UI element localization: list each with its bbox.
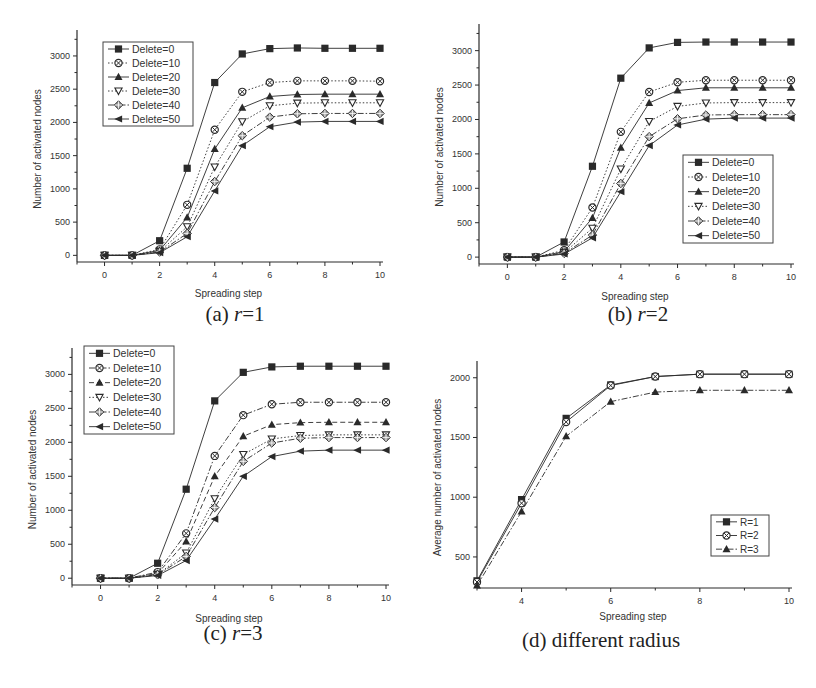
y-tick-label: 1000	[450, 492, 470, 502]
data-point-marker	[382, 447, 390, 454]
data-point-marker	[646, 88, 653, 95]
legend: Delete=0Delete=10Delete=20Delete=30Delet…	[84, 346, 174, 434]
chart-panel-b: 0500100015002000250030000246810Spreading…	[408, 0, 816, 340]
data-point-marker	[348, 90, 356, 97]
data-point-marker	[239, 50, 246, 57]
y-tick-label: 500	[457, 218, 472, 228]
y-tick-label: 0	[65, 250, 70, 260]
data-point-marker	[240, 369, 247, 376]
data-point-marker	[266, 113, 274, 121]
data-point-marker	[268, 401, 275, 408]
data-point-marker	[617, 75, 624, 82]
data-point-marker	[325, 399, 332, 406]
legend-marker-icon	[96, 350, 103, 357]
data-point-marker	[211, 515, 219, 522]
y-tick-label: 2500	[452, 80, 472, 90]
data-point-marker	[589, 163, 596, 170]
series-delete-20	[97, 418, 390, 581]
y-tick-label: 500	[455, 552, 470, 562]
data-point-marker	[211, 472, 219, 479]
legend-marker-icon	[115, 59, 122, 66]
x-tick-label: 8	[326, 593, 331, 603]
data-point-marker	[349, 77, 356, 84]
y-tick-label: 500	[55, 217, 70, 227]
data-point-marker	[646, 44, 653, 51]
data-point-marker	[321, 109, 329, 117]
data-point-marker	[325, 418, 333, 425]
data-point-marker	[321, 77, 328, 84]
legend-marker-icon	[115, 45, 122, 52]
x-tick-label: 10	[784, 596, 794, 606]
data-point-marker	[787, 84, 795, 91]
x-tick-label: 8	[697, 596, 702, 606]
data-point-marker	[321, 118, 329, 125]
data-point-marker	[353, 418, 361, 425]
x-tick-label: 6	[269, 593, 274, 603]
y-tick-label: 1500	[452, 149, 472, 159]
legend-label: Delete=50	[113, 420, 161, 432]
legend-label: Delete=0	[113, 347, 155, 359]
legend-marker-icon	[695, 159, 702, 166]
legend-label: Delete=20	[712, 185, 760, 197]
data-point-marker	[296, 448, 304, 455]
data-point-marker	[617, 166, 624, 173]
y-tick-label: 2500	[45, 403, 65, 413]
legend-item: Delete=40	[688, 215, 760, 227]
y-tick-label: 2000	[450, 373, 470, 383]
legend-label: Delete=0	[132, 43, 174, 55]
x-axis-label: Spreading step	[195, 288, 263, 299]
x-axis-label: Spreading step	[599, 611, 667, 622]
x-tick-label: 6	[267, 270, 272, 280]
data-point-marker	[266, 79, 273, 86]
data-point-marker	[785, 386, 793, 393]
data-point-marker	[382, 418, 390, 425]
data-point-marker	[730, 84, 738, 91]
legend-label: Delete=20	[132, 71, 180, 83]
data-point-marker	[348, 118, 356, 125]
legend-label: Delete=0	[712, 156, 754, 168]
data-point-marker	[731, 77, 738, 84]
legend-label: R=2	[740, 530, 759, 541]
data-point-marker	[268, 363, 275, 370]
data-point-marker	[211, 145, 219, 152]
y-axis-label: Average number of activated nodes	[432, 399, 443, 557]
x-tick-label: 2	[155, 593, 160, 603]
y-tick-label: 2000	[50, 117, 70, 127]
data-point-marker	[266, 45, 273, 52]
data-point-marker	[376, 118, 384, 125]
data-point-marker	[268, 420, 276, 427]
data-point-marker	[560, 238, 567, 245]
y-tick-label: 2500	[50, 84, 70, 94]
x-tick-label: 6	[608, 596, 613, 606]
data-point-marker	[589, 204, 596, 211]
data-point-marker	[696, 371, 703, 378]
data-point-marker	[240, 412, 247, 419]
y-tick-label: 1000	[50, 184, 70, 194]
data-point-marker	[382, 363, 389, 370]
data-point-marker	[211, 397, 218, 404]
y-tick-label: 1000	[45, 505, 65, 515]
data-point-marker	[376, 90, 384, 97]
y-tick-label: 500	[50, 539, 65, 549]
legend-marker-icon	[695, 173, 702, 180]
y-tick-label: 3000	[50, 51, 70, 61]
data-point-marker	[702, 84, 710, 91]
legend: R=1R=2R=3	[711, 515, 769, 556]
data-point-marker	[239, 119, 246, 126]
legend: Delete=0Delete=10Delete=20Delete=30Delet…	[103, 42, 193, 126]
legend-marker-icon	[723, 532, 730, 539]
y-tick-label: 3000	[452, 46, 472, 56]
axes: 0500100015002000250030000246810	[50, 30, 385, 280]
data-point-marker	[293, 118, 301, 125]
legend-label: Delete=50	[132, 113, 180, 125]
data-point-marker	[702, 77, 709, 84]
caption-b: (b) r=2	[518, 302, 758, 327]
data-point-marker	[348, 109, 356, 117]
data-point-marker	[325, 363, 332, 370]
y-tick-label: 1500	[450, 432, 470, 442]
data-point-marker	[211, 187, 219, 194]
legend: Delete=0Delete=10Delete=20Delete=30Delet…	[683, 155, 773, 243]
data-point-marker	[652, 373, 659, 380]
data-point-marker	[787, 38, 794, 45]
data-point-marker	[238, 104, 246, 111]
